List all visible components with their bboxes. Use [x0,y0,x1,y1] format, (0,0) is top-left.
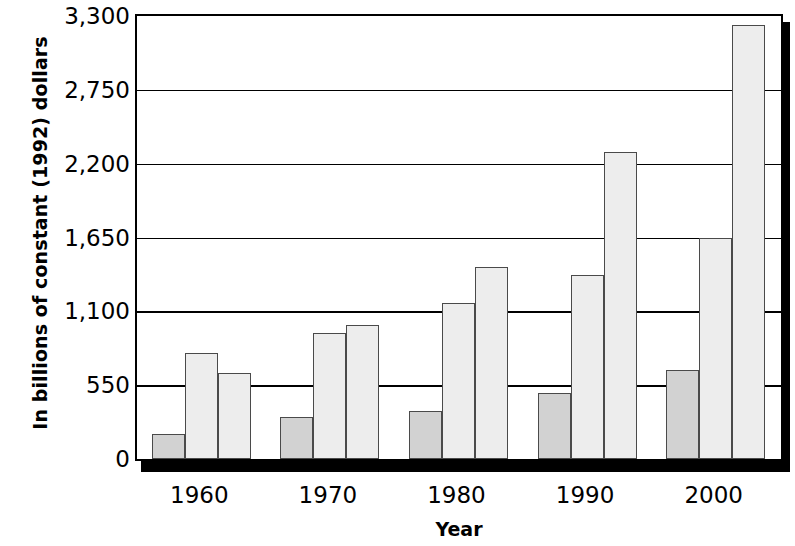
bar-chart: In billions of constant (1992) dollars 0… [0,0,795,546]
bar [475,267,508,459]
y-axis-tick-label: 3,300 [26,5,130,28]
bar [346,325,379,459]
bar [409,411,442,459]
bar [280,417,313,459]
x-axis-tick-label: 1960 [139,484,259,507]
y-axis-tick-label: 2,200 [26,152,130,175]
bar [666,370,699,459]
bar [604,152,637,459]
bar [313,333,346,459]
bars-layer [137,16,781,459]
x-axis-title: Year [135,518,783,540]
bar [538,393,571,459]
x-axis-tick-label: 2000 [654,484,774,507]
y-axis-tick-label: 2,750 [26,78,130,101]
x-axis-tick-labels: 19601970198019902000 [135,484,783,514]
bar [571,275,604,459]
bar [218,373,251,459]
bar [185,353,218,459]
plot-area [135,14,783,461]
y-axis-tick-label: 0 [26,448,130,471]
x-axis-tick-label: 1970 [268,484,388,507]
bar [442,303,475,459]
y-axis-tick-label: 550 [26,374,130,397]
bar [152,434,185,460]
x-axis-baseline [141,461,790,472]
y-axis-tick-label: 1,650 [26,226,130,249]
bar [732,25,765,459]
y-axis-tick-labels: 05501,1001,6502,2002,7503,300 [26,0,130,470]
y-axis-tick-label: 1,100 [26,300,130,323]
bar [699,238,732,460]
x-axis-tick-label: 1980 [397,484,517,507]
x-axis-tick-label: 1990 [525,484,645,507]
